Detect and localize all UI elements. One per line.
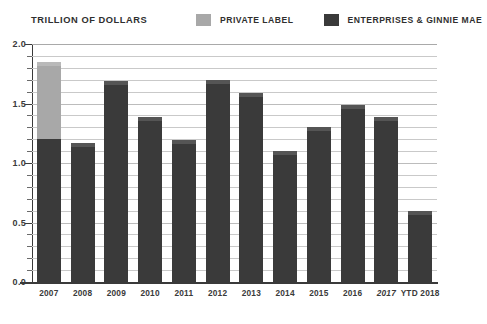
- bar-group[interactable]: [341, 105, 365, 282]
- bar-segment-enterprises-ginnie-mae[interactable]: [206, 80, 230, 282]
- bar-cap-enterprises-ginnie-mae: [374, 117, 398, 121]
- legend-label-private_label: PRIVATE LABEL: [220, 15, 294, 25]
- bar-segment-enterprises-ginnie-mae[interactable]: [374, 117, 398, 282]
- bar-segment-enterprises-ginnie-mae[interactable]: [172, 140, 196, 282]
- bar-group[interactable]: [206, 80, 230, 282]
- x-axis-line: [20, 282, 438, 284]
- x-axis-label-2007: 2007: [39, 288, 58, 298]
- bar-segment-enterprises-ginnie-mae[interactable]: [37, 139, 61, 282]
- bar-cap-enterprises-ginnie-mae: [239, 93, 263, 97]
- bar-cap-enterprises-ginnie-mae: [138, 117, 162, 121]
- x-axis-label-2017: 2017: [377, 288, 396, 298]
- bar-group[interactable]: [71, 143, 95, 282]
- x-axis-label-2009: 2009: [107, 288, 126, 298]
- bar-cap-enterprises-ginnie-mae: [104, 81, 128, 85]
- chart-header: TRILLION OF DOLLARS PRIVATE LABELENTERPR…: [0, 0, 449, 36]
- bar-segment-enterprises-ginnie-mae[interactable]: [71, 143, 95, 282]
- y-axis-tick: [25, 163, 32, 164]
- x-axis-label-2008: 2008: [73, 288, 92, 298]
- x-axis-label-2015: 2015: [309, 288, 328, 298]
- y-axis-tick: [25, 44, 32, 45]
- bar-series-container: [32, 44, 437, 282]
- bar-segment-enterprises-ginnie-mae[interactable]: [341, 105, 365, 282]
- legend-swatch-private_label: [196, 14, 211, 26]
- bar-cap-enterprises-ginnie-mae: [206, 80, 230, 84]
- bar-cap-enterprises-ginnie-mae: [71, 143, 95, 147]
- bar-group[interactable]: [104, 81, 128, 282]
- bar-group[interactable]: [307, 127, 331, 282]
- legend-label-enterprises_ginnie_mae: ENTERPRISES & GINNIE MAE: [348, 15, 483, 25]
- bar-cap-enterprises-ginnie-mae: [172, 140, 196, 144]
- bar-cap-enterprises-ginnie-mae: [408, 211, 432, 215]
- x-axis-label-2011: 2011: [174, 288, 193, 298]
- bar-group[interactable]: [273, 151, 297, 282]
- bar-segment-enterprises-ginnie-mae[interactable]: [408, 211, 432, 282]
- x-axis-label-2010: 2010: [140, 288, 159, 298]
- legend-item-enterprises_ginnie_mae: ENTERPRISES & GINNIE MAE: [324, 14, 483, 26]
- bar-segment-private-label[interactable]: [37, 62, 61, 139]
- x-axis-label-2012: 2012: [208, 288, 227, 298]
- y-axis-tick: [25, 223, 32, 224]
- bar-group[interactable]: [37, 62, 61, 282]
- legend-item-private_label: PRIVATE LABEL: [196, 14, 294, 26]
- bar-segment-enterprises-ginnie-mae[interactable]: [104, 81, 128, 282]
- bar-cap-enterprises-ginnie-mae: [273, 151, 297, 155]
- legend-swatch-enterprises_ginnie_mae: [324, 14, 339, 26]
- chart-legend: PRIVATE LABELENTERPRISES & GINNIE MAE: [196, 13, 487, 27]
- bar-group[interactable]: [172, 140, 196, 282]
- y-axis-label: 2.0: [13, 39, 26, 49]
- x-axis-label-ytd-2018: YTD 2018: [401, 288, 440, 298]
- bar-group[interactable]: [374, 117, 398, 282]
- bar-group[interactable]: [408, 211, 432, 282]
- bar-cap-enterprises-ginnie-mae: [307, 127, 331, 131]
- y-axis-label: 1.0: [13, 158, 26, 168]
- bar-segment-enterprises-ginnie-mae[interactable]: [138, 117, 162, 282]
- bar-cap-enterprises-ginnie-mae: [341, 105, 365, 109]
- x-axis-label-2016: 2016: [343, 288, 362, 298]
- y-axis-label: 1.5: [13, 99, 26, 109]
- bar-cap-private-label: [37, 62, 61, 66]
- x-axis-label-2013: 2013: [242, 288, 261, 298]
- plot-area: [32, 44, 437, 282]
- bar-segment-enterprises-ginnie-mae[interactable]: [239, 93, 263, 282]
- y-axis-label: 0.5: [13, 218, 26, 228]
- bar-segment-enterprises-ginnie-mae[interactable]: [307, 127, 331, 282]
- bar-group[interactable]: [138, 117, 162, 282]
- x-axis-labels: 2007200820092010201120122013201420152016…: [32, 288, 437, 308]
- bar-group[interactable]: [239, 93, 263, 282]
- bar-segment-enterprises-ginnie-mae[interactable]: [273, 151, 297, 282]
- x-axis-label-2014: 2014: [275, 288, 294, 298]
- chart-axis-title: TRILLION OF DOLLARS: [31, 15, 147, 25]
- y-axis-tick: [25, 104, 32, 105]
